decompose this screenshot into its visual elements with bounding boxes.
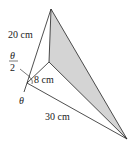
label-8cm: 8 cm [34,74,54,85]
label-half-theta-num: θ [10,50,15,61]
label-half-theta-den: 2 [10,62,15,73]
geometry-figure: 20 cm 8 cm 30 cm θ 2 θ [0,0,137,149]
extension-line [24,83,27,92]
edge-bottom [27,83,127,139]
label-30cm: 30 cm [45,111,70,122]
half-angle-pointer [20,69,30,77]
label-20cm: 20 cm [8,29,33,40]
label-theta: θ [19,95,24,106]
